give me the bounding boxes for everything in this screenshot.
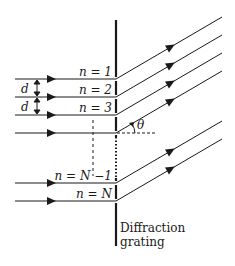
caption-line-2: grating (120, 235, 165, 249)
angle-label: θ (137, 118, 145, 132)
slit-label-2: n = 2 (79, 83, 112, 97)
slit-label-n-minus-1: n = N −1 (55, 169, 112, 183)
diffraction-diagram: d d n = 1 n = 2 n = 3 n = N −1 n = N θ D… (0, 0, 235, 266)
slit-label-1: n = 1 (79, 65, 112, 79)
spacing-label-1: d (21, 82, 29, 96)
slit-label-n: n = N (76, 187, 112, 201)
incident-arrow-icons (47, 75, 56, 205)
slit-label-3: n = 3 (79, 101, 112, 115)
spacing-label-2: d (21, 100, 29, 114)
diffracted-arrow-icons (165, 41, 177, 174)
caption-line-1: Diffraction (120, 221, 185, 235)
